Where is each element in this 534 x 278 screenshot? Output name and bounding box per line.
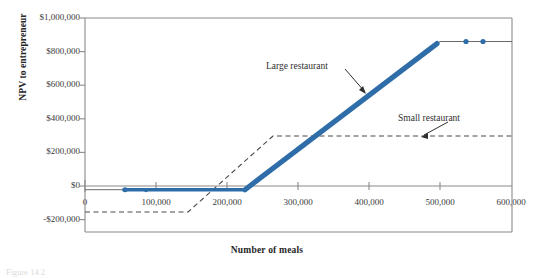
chart-figure: NPV to entrepreneur Number of meals $1,0… bbox=[0, 0, 534, 278]
series-large-restaurant-markers bbox=[123, 39, 486, 192]
series-large-restaurant-line bbox=[85, 42, 512, 190]
axis-frame bbox=[85, 18, 512, 232]
plot-canvas bbox=[0, 0, 534, 278]
y-axis-ticks bbox=[79, 18, 85, 220]
